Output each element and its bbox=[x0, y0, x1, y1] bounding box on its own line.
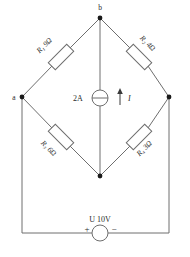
node-dot-bottom bbox=[98, 174, 103, 179]
wire-b-to-r2 bbox=[100, 18, 130, 48]
voltage-source-circle bbox=[92, 225, 108, 241]
wire-r4-to-right bbox=[148, 97, 169, 128]
wire-r2-to-right bbox=[148, 66, 169, 97]
current-source-value-label: 2A bbox=[73, 94, 83, 103]
circuit-diagram: a b R₁ 9Ω R₂ 4Ω R₃ 6Ω R₄ 3Ω 2A I U 10V +… bbox=[0, 0, 190, 257]
node-label-b: b bbox=[98, 3, 102, 12]
resistor-label-r1: R₁ 9Ω bbox=[34, 35, 54, 55]
voltage-source-minus-sign: − bbox=[111, 224, 116, 234]
wire-r1-to-b bbox=[70, 18, 100, 48]
wire-a-to-r1 bbox=[22, 66, 52, 97]
resistor-label-r2: R₂ 4Ω bbox=[137, 33, 157, 53]
wire-a-to-r3 bbox=[22, 97, 52, 128]
voltage-source-value-label: U 10V bbox=[89, 215, 111, 224]
node-dot-right bbox=[167, 95, 172, 100]
node-label-a: a bbox=[12, 93, 16, 102]
current-arrow-head bbox=[117, 88, 123, 94]
resistor-body-r1 bbox=[48, 44, 73, 69]
wire-bottom-to-r4 bbox=[100, 146, 130, 176]
voltage-source-plus-sign: + bbox=[84, 224, 89, 234]
node-dot-a bbox=[20, 95, 25, 100]
node-dot-b bbox=[98, 16, 103, 21]
current-symbol-label: I bbox=[127, 94, 131, 103]
resistor-label-r3: R₃ 6Ω bbox=[38, 138, 58, 158]
wire-r3-to-bottom bbox=[70, 146, 100, 176]
